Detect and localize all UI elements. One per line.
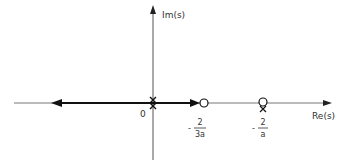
tick-label-minus-2-over-a: - 2 a xyxy=(252,118,268,139)
imaginary-axis-label: Im(s) xyxy=(162,10,185,20)
svg-text:-: - xyxy=(252,124,255,133)
right-branch-arrow-icon xyxy=(190,99,200,107)
tick-label-minus-2-over-3a: - 2 3a xyxy=(188,118,206,139)
zero-circle-icon xyxy=(259,98,267,106)
origin-label: 0 xyxy=(140,109,146,119)
root-locus-diagram: Im(s) Re(s) 0 - 2 3a - 2 a xyxy=(0,0,345,167)
imaginary-axis-arrow-icon xyxy=(150,5,156,14)
imaginary-axis xyxy=(150,5,156,160)
real-axis-arrow-icon xyxy=(323,100,332,106)
svg-text:-: - xyxy=(188,124,191,133)
real-axis-label: Re(s) xyxy=(312,111,335,121)
locus-branch-right xyxy=(153,99,200,107)
pole-x-icon xyxy=(260,106,266,112)
svg-text:2: 2 xyxy=(260,118,265,127)
svg-text:a: a xyxy=(261,130,266,139)
svg-text:3a: 3a xyxy=(195,130,205,139)
left-branch-arrow-icon xyxy=(51,99,62,107)
zero-circle-icon xyxy=(200,99,208,107)
svg-text:2: 2 xyxy=(197,118,202,127)
locus-branch-left xyxy=(51,99,153,107)
